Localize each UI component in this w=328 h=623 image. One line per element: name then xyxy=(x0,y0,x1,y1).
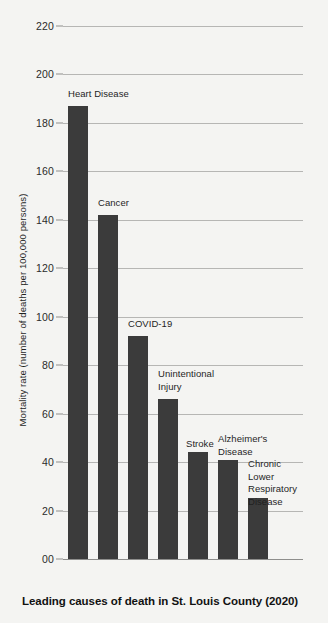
y-tick-160: 160 xyxy=(36,165,54,177)
bar-label-stroke: Stroke xyxy=(186,438,214,451)
tick-stub-60 xyxy=(56,413,63,414)
y-tick-180: 180 xyxy=(36,117,54,129)
y-tick-80: 80 xyxy=(42,359,54,371)
bar-covid-19[interactable] xyxy=(128,336,148,559)
tick-stub-0 xyxy=(56,559,63,560)
y-tick-100: 100 xyxy=(36,311,54,323)
bar-cancer[interactable] xyxy=(98,215,118,559)
bar-label-heart-disease: Heart Disease xyxy=(68,88,129,101)
y-axis-title: Mortality rate (number of deaths per 100… xyxy=(17,194,28,427)
tick-stub-220 xyxy=(56,26,63,27)
bar-label-cancer: Cancer xyxy=(98,197,129,210)
bar-chart-figure: Mortality rate (number of deaths per 100… xyxy=(0,0,328,623)
y-axis-title-container: Mortality rate (number of deaths per 100… xyxy=(8,130,22,490)
y-tick-0: 00 xyxy=(42,553,54,565)
bar-alzheimers-disease[interactable] xyxy=(218,460,238,559)
tick-stub-140 xyxy=(56,219,63,220)
tick-stub-160 xyxy=(56,171,63,172)
y-tick-60: 60 xyxy=(42,408,54,420)
tick-stub-200 xyxy=(56,74,63,75)
y-tick-20: 20 xyxy=(42,505,54,517)
gridline-180: 180 xyxy=(63,123,303,124)
bar-label-alzheimers-disease: Alzheimer's Disease xyxy=(218,433,267,458)
y-tick-120: 120 xyxy=(36,262,54,274)
tick-stub-80 xyxy=(56,365,63,366)
tick-stub-180 xyxy=(56,122,63,123)
gridline-160: 160 xyxy=(63,171,303,172)
chart-caption: Leading causes of death in St. Louis Cou… xyxy=(22,595,314,607)
y-tick-220: 220 xyxy=(36,20,54,32)
tick-stub-40 xyxy=(56,462,63,463)
gridline-220: 220 xyxy=(63,26,303,27)
bar-unintentional-injury[interactable] xyxy=(158,399,178,559)
bar-stroke[interactable] xyxy=(188,452,208,559)
bar-heart-disease[interactable] xyxy=(68,106,88,559)
gridline-200: 200 xyxy=(63,74,303,75)
bar-label-chronic-lower-respiratory-disease: Chronic Lower Respiratory Disease xyxy=(248,458,303,508)
y-tick-200: 200 xyxy=(36,68,54,80)
gridline-baseline-0: 00 xyxy=(63,559,303,560)
y-tick-140: 140 xyxy=(36,214,54,226)
y-tick-40: 40 xyxy=(42,456,54,468)
tick-stub-120 xyxy=(56,268,63,269)
tick-stub-20 xyxy=(56,510,63,511)
bar-label-unintentional-injury: Unintentional Injury xyxy=(158,368,214,393)
bar-label-covid-19: COVID-19 xyxy=(128,318,172,331)
plot-area: 220 200 180 160 140 120 100 80 xyxy=(63,26,303,559)
tick-stub-100 xyxy=(56,316,63,317)
